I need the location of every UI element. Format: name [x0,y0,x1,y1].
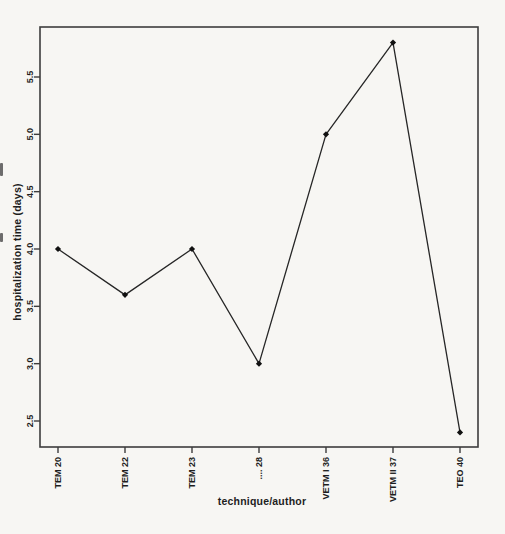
x-tick-label: VETM II 37 [388,457,398,502]
y-tick-label: 3.0 [25,357,35,370]
x-tick-label: .... 28 [254,457,264,480]
x-tick-label: TEO 40 [455,457,465,488]
scan-artifact [0,163,3,176]
scanned-figure-page: 2.53.03.54.04.55.05.5TEM 20TEM 22TEM 23.… [0,0,505,534]
x-tick-label: VETM I 36 [321,457,331,500]
y-tick-label: 3.5 [25,300,35,313]
x-tick-label: TEM 22 [120,457,130,489]
data-line [58,43,460,433]
y-tick-label: 5.5 [25,71,35,84]
line-chart: 2.53.03.54.04.55.05.5TEM 20TEM 22TEM 23.… [0,0,505,534]
x-axis-title: technique/author [218,495,306,507]
data-point [256,361,262,367]
x-tick-label: TEM 20 [53,457,63,489]
y-tick-label: 4.5 [25,185,35,198]
y-axis-title: hospitalization time (days) [11,183,23,320]
plot-box [40,27,478,447]
scan-artifact [0,233,3,242]
x-tick-label: TEM 23 [187,457,197,489]
data-point [457,429,463,435]
y-tick-label: 2.5 [25,415,35,428]
y-tick-label: 5.0 [25,128,35,141]
y-tick-label: 4.0 [25,243,35,256]
